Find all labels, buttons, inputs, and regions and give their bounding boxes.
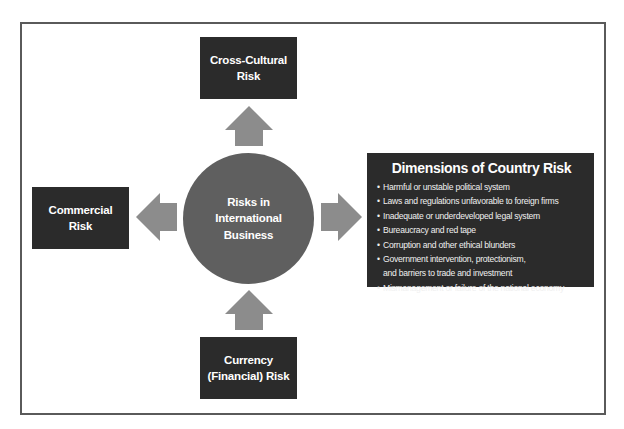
list-item-text: and barriers to trade and investment	[383, 266, 586, 280]
box-label-line: Commercial	[49, 202, 113, 218]
circle-label-line: Business	[224, 227, 274, 244]
risks-in-international-business-circle: Risks in International Business	[183, 153, 314, 284]
arrow-up-icon	[225, 106, 273, 146]
circle-label-line: Risks in	[227, 194, 270, 211]
box-label-line: Risk	[69, 218, 93, 234]
dimensions-of-country-risk-box: Dimensions of Country Risk Harmful or un…	[367, 153, 594, 287]
box-label-line: Risk	[237, 68, 261, 84]
list-item-text: Harmful or unstable political system	[383, 180, 586, 194]
arrow-right-icon	[321, 193, 362, 241]
list-item: Government intervention, protectionism, …	[377, 252, 586, 281]
box-label-line: Cross-Cultural	[210, 52, 287, 68]
country-risk-list: Harmful or unstable political system Law…	[377, 180, 586, 295]
box-label-line: (Financial) Risk	[208, 368, 290, 384]
list-item-text: Laws and regulations unfavorable to fore…	[383, 194, 586, 208]
arrow-left-icon	[136, 193, 177, 241]
list-item-text: Bureaucracy and red tape	[383, 223, 586, 237]
box-label-line: Currency	[224, 352, 273, 368]
list-item-text: Inadequate or underdeveloped legal syste…	[383, 209, 586, 223]
commercial-risk-box: Commercial Risk	[32, 187, 129, 249]
list-item: Bureaucracy and red tape	[377, 223, 586, 237]
arrow-up-icon	[225, 290, 273, 330]
cross-cultural-risk-box: Cross-Cultural Risk	[200, 37, 297, 99]
currency-financial-risk-box: Currency (Financial) Risk	[200, 337, 297, 399]
dimensions-title: Dimensions of Country Risk	[377, 159, 586, 177]
circle-label-line: International	[215, 210, 281, 227]
list-item-text: Corruption and other ethical blunders	[383, 238, 586, 252]
list-item: Harmful or unstable political system	[377, 180, 586, 194]
list-item: Mismanagement or failure of the national…	[377, 281, 586, 295]
list-item: Corruption and other ethical blunders	[377, 238, 586, 252]
list-item: Inadequate or underdeveloped legal syste…	[377, 209, 586, 223]
list-item: Laws and regulations unfavorable to fore…	[377, 194, 586, 208]
list-item-text: Government intervention, protectionism,	[383, 252, 586, 266]
list-item-text: Mismanagement or failure of the national…	[383, 281, 586, 295]
